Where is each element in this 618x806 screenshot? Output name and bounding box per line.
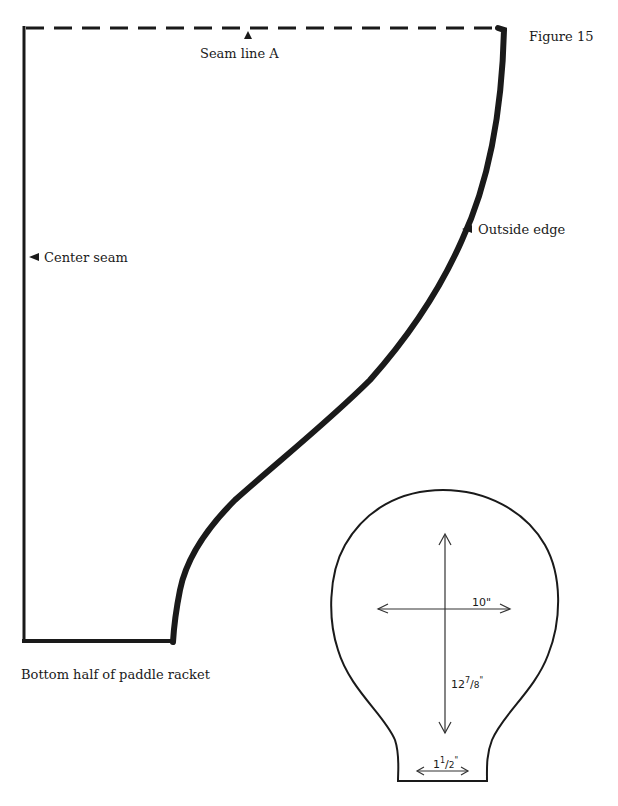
neck-whole: 1 <box>433 758 440 771</box>
diagram-canvas <box>0 0 618 806</box>
center-seam-label: Center seam <box>44 251 128 264</box>
height-dimension-label: 127/8" <box>451 677 483 690</box>
neck-dimension-label: 11/2" <box>433 757 458 770</box>
figure-number: Figure 15 <box>529 30 593 43</box>
neck-num: 1 <box>440 756 445 765</box>
seam-line-marker-icon <box>244 31 252 39</box>
neck-unit: " <box>455 756 459 765</box>
seam-line-label: Seam line A <box>200 47 279 60</box>
height-whole: 12 <box>451 678 465 691</box>
outside-edge-curve <box>173 28 504 642</box>
outside-edge-label: Outside edge <box>478 223 565 236</box>
height-num: 7 <box>465 676 470 685</box>
width-dimension-label: 10" <box>472 597 491 608</box>
center-seam-marker-icon <box>29 253 39 261</box>
height-unit: " <box>480 676 484 685</box>
pattern-caption: Bottom half of paddle racket <box>21 668 210 681</box>
